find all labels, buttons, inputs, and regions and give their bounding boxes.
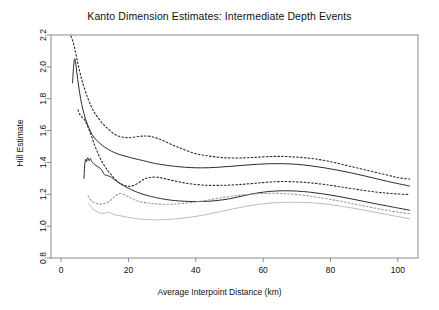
- x-tick-label: 60: [258, 265, 268, 275]
- y-tick-label: 2.2: [38, 29, 48, 41]
- chart-figure: Kanto Dimension Estimates: Intermediate …: [0, 0, 439, 310]
- y-tick-label: 1.0: [38, 220, 48, 232]
- y-tick-label: 0.8: [38, 252, 48, 264]
- y-axis-label: Hill Estimate: [15, 93, 25, 193]
- x-tick-label: 100: [391, 265, 405, 275]
- x-axis-label: Average Interpoint Distance (km): [0, 287, 439, 297]
- plot-area: 0204060801000.81.01.21.41.61.82.02.2: [0, 0, 439, 310]
- y-tick-label: 1.6: [38, 124, 48, 136]
- x-tick-label: 80: [326, 265, 336, 275]
- y-tick-label: 1.4: [38, 156, 48, 168]
- x-tick-label: 40: [191, 265, 201, 275]
- plot-frame: [51, 35, 418, 258]
- y-tick-label: 1.8: [38, 93, 48, 105]
- x-tick-label: 0: [59, 265, 64, 275]
- y-tick-label: 1.2: [38, 188, 48, 200]
- y-tick-label: 2.0: [38, 61, 48, 73]
- x-tick-label: 20: [124, 265, 134, 275]
